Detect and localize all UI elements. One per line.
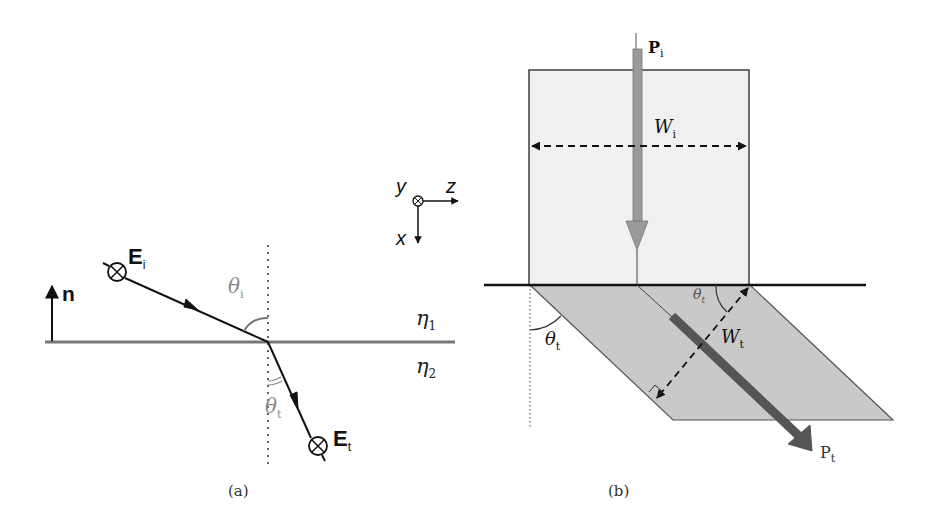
x-axis-label: x [396, 228, 406, 248]
transmitted-angle-label: θt [265, 396, 281, 420]
transmitted-angle-arc [268, 377, 281, 381]
transmitted-field-into-page-icon [309, 437, 327, 461]
z-axis-label: z [446, 176, 456, 196]
incident-power-arrow [633, 49, 642, 221]
incident-width-label: Wi [654, 118, 676, 140]
transmitted-width-label: Wt [721, 328, 744, 350]
medium-2-label: η2 [416, 356, 436, 380]
outer-angle-label: θt [545, 330, 560, 352]
normal-label: n [62, 283, 75, 304]
transmitted-power-label: Pt [820, 445, 835, 464]
y-axis-label: y [396, 176, 406, 196]
incident-angle-label: θi [228, 276, 244, 300]
inner-angle-label: θt [693, 287, 705, 305]
transmitted-ray-arrowhead [290, 392, 298, 410]
incident-ray-arrowhead [184, 299, 198, 310]
incident-angle-arc [244, 318, 268, 331]
transmitted-ray [268, 342, 311, 438]
medium-1-label: η1 [416, 308, 436, 332]
panel-a [45, 245, 455, 468]
panel-b [484, 33, 893, 451]
caption-b: (b) [608, 484, 629, 499]
caption-a: (a) [228, 484, 249, 499]
coordinate-axes [413, 196, 458, 243]
incident-field-into-page-icon [103, 263, 126, 281]
incident-power-label: Pi [648, 40, 664, 59]
incident-field-label: Ei [128, 246, 145, 271]
transmitted-field-label: Et [333, 428, 351, 453]
